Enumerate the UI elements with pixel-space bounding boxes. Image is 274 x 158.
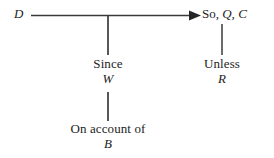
claim-symbol: C <box>238 6 247 21</box>
claim-qualifier-symbol: Q, <box>222 6 235 21</box>
arrowhead-icon <box>189 11 201 21</box>
toulmin-diagram: D So, Q, C Since W On account of B Unles… <box>0 0 274 158</box>
rebuttal-connective: Unless <box>182 56 262 71</box>
node-datum: D <box>14 6 24 22</box>
claim-connective: So, <box>202 6 219 21</box>
rebuttal-symbol: R <box>182 71 262 86</box>
backing-symbol: B <box>38 136 178 151</box>
node-rebuttal: Unless R <box>182 56 262 87</box>
node-claim: So, Q, C <box>202 6 247 22</box>
node-backing: On account of B <box>38 121 178 152</box>
warrant-symbol: W <box>58 71 158 86</box>
warrant-connective: Since <box>58 56 158 71</box>
node-warrant: Since W <box>58 56 158 87</box>
backing-connective: On account of <box>38 121 178 136</box>
datum-symbol: D <box>14 6 24 21</box>
